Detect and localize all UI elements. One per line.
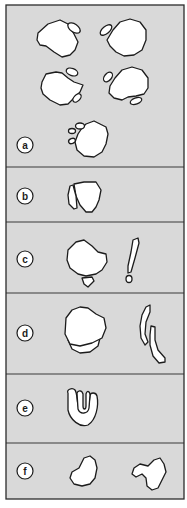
shape-e-u-inner xyxy=(77,391,90,413)
panel-label-c: c xyxy=(22,254,28,265)
panel-label-d: d xyxy=(22,328,28,339)
shape-a-bottom-small-2 xyxy=(69,129,76,134)
shape-a-bottom-small-1 xyxy=(76,123,85,129)
panel-label-b: b xyxy=(22,191,28,202)
shape-c-dot xyxy=(126,276,132,283)
panel-label-a: a xyxy=(22,140,28,151)
figure: a b c d e f xyxy=(0,0,187,508)
panel-label-e: e xyxy=(22,403,28,414)
